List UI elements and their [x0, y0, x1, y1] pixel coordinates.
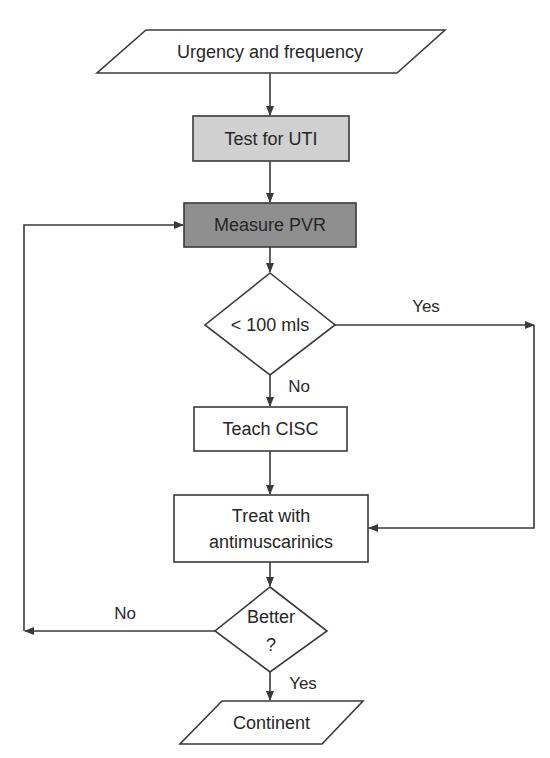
teach-cisc-node: Teach CISC: [194, 407, 347, 451]
start-node-label: Urgency and frequency: [177, 41, 363, 63]
decision-100mls-label: < 100 mls: [231, 314, 310, 336]
decision-better-node: Better ?: [215, 603, 327, 659]
decision-better-label-line1: Better: [247, 603, 295, 631]
treat-label-line1: Treat with: [232, 503, 310, 529]
test-uti-node: Test for UTI: [193, 116, 349, 161]
test-uti-label: Test for UTI: [224, 128, 317, 150]
measure-pvr-node: Measure PVR: [184, 203, 356, 247]
edge-label-d2-no: No: [110, 604, 140, 624]
edge-label-d1-no: No: [284, 377, 314, 397]
treat-node: Treat with antimuscarinics: [174, 495, 368, 562]
measure-pvr-label: Measure PVR: [214, 214, 326, 236]
edge-left-loop-to-measure: [24, 225, 183, 631]
teach-cisc-label: Teach CISC: [222, 418, 318, 440]
edge-label-d1-yes: Yes: [408, 297, 444, 317]
end-node-label: Continent: [233, 712, 310, 734]
decision-better-label-line2: ?: [266, 631, 276, 659]
edge-label-d2-yes: Yes: [285, 674, 321, 694]
decision-100mls-node: < 100 mls: [205, 313, 335, 337]
start-node: Urgency and frequency: [120, 30, 420, 73]
treat-label-line2: antimuscarinics: [209, 529, 333, 555]
edge-right-loop-to-treat: [369, 325, 534, 528]
end-node: Continent: [200, 701, 343, 744]
